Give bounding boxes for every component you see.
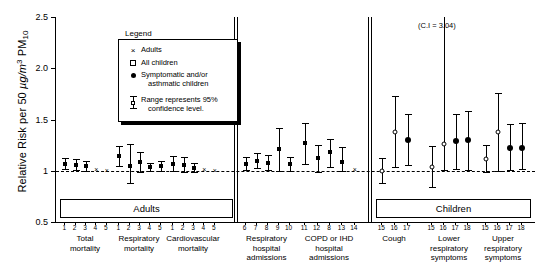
data-point-dot <box>465 137 471 143</box>
legend-item-confidence-range-label: Range represents 95% confidence level. <box>141 95 218 113</box>
x-group-caption: Cardiovascularmortality <box>155 234 231 253</box>
legend-item-symptomatic-children: Symptomatic and/or asthmatic children <box>125 70 231 88</box>
data-point-square <box>128 164 132 168</box>
error-bar-cap-upper <box>429 146 436 147</box>
x-tick-mark <box>354 222 355 225</box>
error-bar-cap-upper <box>339 147 346 148</box>
data-point-square <box>148 165 152 169</box>
x-tick-mark <box>85 222 86 225</box>
x-tick-mark <box>509 222 510 225</box>
error-bar-cap-lower <box>254 168 261 169</box>
x-group-caption-line: mortality <box>155 244 231 254</box>
error-bar-cap-upper <box>127 144 134 145</box>
error-bar-cap-upper <box>276 128 283 129</box>
x-tick-mark <box>317 222 318 225</box>
error-bar-cap-upper <box>465 111 472 112</box>
x-tick-mark <box>75 222 76 225</box>
error-bar-cap-lower <box>137 172 144 173</box>
x-tick-mark <box>183 222 184 225</box>
error-bar-cap-lower <box>147 171 154 172</box>
x-tick-mark <box>304 222 305 225</box>
error-bar-cap-lower <box>465 170 472 171</box>
filled-circle-marker-icon <box>125 70 141 80</box>
error-bar-cap-upper <box>158 161 165 162</box>
x-tick-mark <box>172 222 173 225</box>
chart-root: Relative Risk per 50 µg/m3 PM10 0.511.52… <box>0 0 540 279</box>
x-tick-mark <box>256 222 257 225</box>
data-point-cross: × <box>105 166 109 173</box>
error-bar-cap-upper <box>83 161 90 162</box>
x-tick-mark <box>485 222 486 225</box>
y-axis-label-text: Relative Risk per 50 <box>16 89 28 193</box>
x-group-caption: COPD or IHDhospitaladmissions <box>286 234 372 263</box>
error-bar-cap-upper <box>302 123 309 124</box>
error-bar-cap-lower <box>405 165 412 166</box>
x-tick-mark <box>431 222 432 225</box>
error-bar-cap-lower <box>127 183 134 184</box>
x-tick-mark <box>289 222 290 225</box>
data-point-square <box>138 160 142 164</box>
data-point-square <box>277 147 281 151</box>
x-group-caption-line: Cardiovascular <box>155 234 231 244</box>
x-tick-mark <box>95 222 96 225</box>
x-group-caption-line: Upper <box>467 234 539 244</box>
panel-banner-label: Children <box>436 203 471 214</box>
data-point-square <box>63 162 67 166</box>
x-tick-mark <box>407 222 408 225</box>
legend-item-all-children-label: All children <box>141 58 178 67</box>
legend-item-confidence-range: Range represents 95% confidence level. <box>125 95 231 113</box>
error-bar-cap-upper <box>405 114 412 115</box>
data-point-open <box>496 129 501 134</box>
error-bar-cap-lower <box>379 183 386 184</box>
data-point-square <box>303 141 307 145</box>
y-axis-label: Relative Risk per 50 µg/m3 PM10 <box>15 2 30 222</box>
x-tick-mark <box>521 222 522 225</box>
data-point-square <box>74 163 78 167</box>
legend-symptomatic-line2: asthmatic children <box>141 79 208 88</box>
x-tick-label: 18 <box>459 224 475 231</box>
error-bar-cap-upper <box>519 123 526 124</box>
data-point-square <box>84 164 88 168</box>
error-bar-cap-lower <box>327 167 334 168</box>
data-point-open <box>442 142 447 147</box>
open-square-marker-icon <box>125 58 141 68</box>
x-tick-mark <box>329 222 330 225</box>
x-tick-label: 17 <box>399 224 415 231</box>
error-bar-cap-lower <box>158 171 165 172</box>
error-bar-cap-upper <box>392 96 399 97</box>
error-bar-cap-upper <box>507 124 514 125</box>
error-bar-cap-upper <box>327 139 334 140</box>
error-bar-cap-lower <box>339 171 346 172</box>
error-bar-cap-upper <box>254 153 261 154</box>
panel-banner-label: Adults <box>133 203 159 214</box>
data-point-square <box>266 161 270 165</box>
error-bar-cap-upper <box>483 145 490 146</box>
error-bar-cap-upper <box>379 158 386 159</box>
error-bar-cap-lower <box>170 171 177 172</box>
x-tick-mark <box>149 222 150 225</box>
legend-item-all-children: All children <box>125 58 231 68</box>
x-group-caption-line: hospital <box>286 244 372 254</box>
legend: Legend × Adults All children Symptomatic… <box>118 39 238 122</box>
data-point-square <box>117 154 121 158</box>
legend-confidence-line1: Range represents 95% <box>141 95 218 104</box>
error-bar-cap-upper <box>170 156 177 157</box>
x-group-caption-line: respiratory <box>467 244 539 254</box>
reference-line-1.0 <box>56 171 535 172</box>
x-tick-mark <box>267 222 268 225</box>
x-tick-mark <box>381 222 382 225</box>
x-tick-mark <box>455 222 456 225</box>
error-bar-cap-lower <box>191 172 198 173</box>
data-point-square <box>328 150 332 154</box>
x-tick-mark <box>278 222 279 225</box>
x-tick-label: 5 <box>206 224 222 231</box>
x-tick-mark <box>443 222 444 225</box>
error-bar-cap-lower <box>73 170 80 171</box>
ci-annotation: (C.I = 3.04) <box>418 21 456 30</box>
legend-title: Legend <box>123 29 154 38</box>
error-bar-cap-lower <box>62 169 69 170</box>
data-point-square <box>288 162 292 166</box>
error-bar-cap-lower <box>181 172 188 173</box>
x-tick-mark <box>203 222 204 225</box>
x-tick-label: 18 <box>513 224 529 231</box>
